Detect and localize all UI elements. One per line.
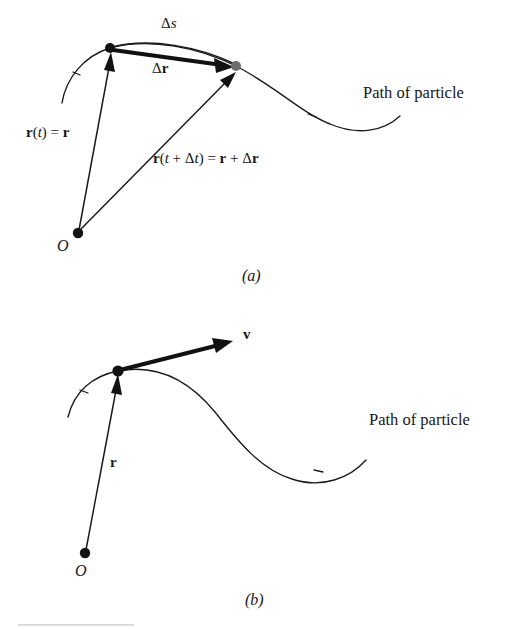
particle-point-b: [112, 365, 123, 376]
label-path-of-particle-a: Path of particle: [363, 85, 464, 102]
figure-root: Δs Δr r(t) = r r(t + Δt) = r + Δr Path o…: [0, 0, 517, 629]
delta-s-delta: Δ: [161, 15, 171, 31]
position-vector-r-b-arrowhead: [111, 374, 122, 395]
label-delta-s: Δs: [161, 16, 177, 31]
position-vector-r-t-arrowhead: [104, 52, 115, 72]
r-tdt-vec-delta-r: r: [252, 150, 259, 166]
caption-panel-a: (a): [242, 268, 261, 284]
caption-panel-b: (b): [245, 592, 264, 608]
label-path-of-particle-b: Path of particle: [369, 412, 470, 429]
particle-path-curve-a: [62, 44, 400, 131]
label-position-r-t: r(t) = r: [26, 125, 69, 140]
label-position-r-t-plus-dt: r(t + Δt) = r + Δr: [153, 151, 259, 166]
particle-point-t: [105, 43, 115, 53]
r-tdt-delta2: Δ: [242, 150, 252, 166]
r-t-equals: =: [47, 124, 63, 140]
r-tdt-vec-r: r: [153, 150, 160, 166]
label-delta-r: Δr: [152, 61, 168, 76]
path-direction-tick-b-right: [314, 470, 323, 472]
velocity-vector-arrowhead: [212, 338, 233, 353]
r-tdt-equals: =: [204, 150, 220, 166]
label-origin-a: O: [57, 238, 69, 254]
delta-r-delta: Δ: [152, 60, 162, 76]
particle-point-t-plus-dt: [231, 61, 241, 71]
panel-b-graphics: [68, 338, 366, 558]
r-tdt-plus-2: +: [226, 150, 242, 166]
delta-s-symbol: s: [171, 15, 177, 31]
label-origin-b: O: [75, 563, 87, 579]
panel-a-graphics: [62, 43, 400, 238]
label-velocity-v: v: [243, 327, 251, 342]
r-t-vec-r-rhs: r: [63, 124, 70, 140]
r-tdt-plus: +: [169, 150, 185, 166]
cropped-caption-sliver: [18, 624, 134, 627]
r-t-vec-r: r: [26, 124, 33, 140]
delta-r-symbol: r: [162, 60, 169, 76]
origin-point-a: [73, 228, 83, 238]
label-position-r-b: r: [110, 455, 117, 470]
velocity-vector-v: [120, 345, 219, 370]
origin-point-b: [80, 548, 90, 558]
